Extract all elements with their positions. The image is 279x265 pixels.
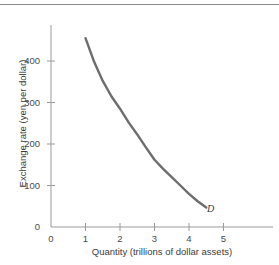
x-tick-label-0: 0 [41, 233, 61, 244]
x-tick-label-4: 4 [179, 233, 199, 244]
x-tick-label-3: 3 [145, 233, 165, 244]
x-tick-label-1: 1 [76, 233, 96, 244]
x-tick-label-2: 2 [110, 233, 130, 244]
exchange-rate-demand-chart: 400 300 200 100 0 0 1 2 3 4 5 Exchange r… [0, 0, 279, 265]
y-tick-label-0: 0 [10, 221, 40, 232]
x-axis-title: Quantity (trillions of dollar assets) [51, 246, 273, 257]
x-tick-label-5: 5 [214, 233, 234, 244]
plot-area [0, 0, 279, 265]
y-axis-title: Exchange rate (yen per dollar) [17, 34, 28, 214]
demand-curve-line [86, 38, 207, 207]
demand-curve-label: D [207, 203, 214, 214]
